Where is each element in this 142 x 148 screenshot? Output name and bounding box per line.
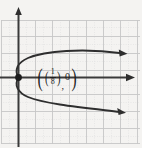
annotation-comma: , [61, 81, 64, 91]
annotation-open-paren: ( [37, 65, 42, 90]
vertex-point-marker [15, 74, 22, 81]
fraction-numerator: 1 [50, 68, 56, 76]
annotation-y-value: 0 [64, 72, 70, 82]
parabola-figure: 5. y x [0, 0, 142, 148]
annotation-inner-open-paren: ( [45, 69, 49, 86]
fraction-one-eighth: 1 8 [50, 68, 56, 85]
point-coordinate-annotation: ( ( 1 8 ) , 0 ) [35, 62, 79, 92]
fraction-denominator: 8 [50, 77, 56, 86]
annotation-close-paren: ) [72, 65, 77, 90]
annotation-inner-close-paren: ) [57, 69, 61, 86]
